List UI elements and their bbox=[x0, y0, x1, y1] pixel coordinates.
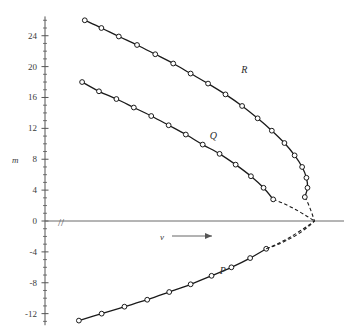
data-point-marker bbox=[82, 18, 87, 23]
series-line bbox=[82, 82, 273, 199]
data-point-marker bbox=[131, 105, 136, 110]
data-point-marker bbox=[167, 290, 172, 295]
data-point-marker bbox=[116, 34, 121, 39]
data-point-marker bbox=[97, 89, 102, 94]
data-point-marker bbox=[209, 273, 214, 278]
data-point-marker bbox=[99, 26, 104, 31]
data-point-marker bbox=[114, 97, 119, 102]
data-point-marker bbox=[240, 104, 245, 109]
series-R bbox=[82, 18, 314, 221]
y-tick-label: 8 bbox=[33, 154, 38, 164]
data-point-marker bbox=[305, 185, 310, 190]
y-tick-label: 4 bbox=[33, 185, 38, 195]
data-point-marker bbox=[183, 132, 188, 137]
data-point-marker bbox=[99, 311, 104, 316]
data-point-marker bbox=[249, 174, 254, 179]
data-point-marker bbox=[80, 80, 85, 85]
data-point-marker bbox=[153, 52, 158, 57]
data-series-group bbox=[76, 18, 314, 323]
data-point-marker bbox=[229, 265, 234, 270]
x-axis-label: ν bbox=[160, 232, 164, 242]
y-tick-label: 20 bbox=[28, 62, 38, 72]
data-point-marker bbox=[217, 151, 222, 156]
data-point-marker bbox=[233, 162, 238, 167]
data-point-marker bbox=[302, 195, 307, 200]
series-line bbox=[85, 20, 308, 197]
chart-canvas: 24201612840-4-8-12 RQP m ν // bbox=[0, 0, 348, 334]
curve-label-Q: Q bbox=[210, 130, 218, 141]
series-P-upper-tail bbox=[266, 221, 314, 249]
data-point-marker bbox=[149, 114, 154, 119]
data-point-marker bbox=[188, 71, 193, 76]
series-dashed-tail bbox=[305, 197, 315, 221]
y-tick-label: 12 bbox=[28, 123, 37, 133]
data-point-marker bbox=[200, 142, 205, 147]
data-point-marker bbox=[269, 128, 274, 133]
y-tick-label: 16 bbox=[28, 92, 38, 102]
data-point-marker bbox=[271, 197, 276, 202]
x-axis bbox=[45, 221, 344, 239]
data-point-marker bbox=[255, 116, 260, 121]
series-Q bbox=[80, 80, 315, 221]
data-point-marker bbox=[145, 297, 150, 302]
curve-label-P: P bbox=[219, 265, 226, 276]
series-dashed-tail bbox=[266, 221, 314, 249]
axis-break-icon: // bbox=[58, 216, 65, 228]
y-tick-label: -4 bbox=[30, 247, 38, 257]
figure-container: 24201612840-4-8-12 RQP m ν // bbox=[0, 0, 348, 334]
data-point-marker bbox=[135, 43, 140, 48]
series-dashed-tail bbox=[266, 221, 314, 249]
data-point-marker bbox=[206, 81, 211, 86]
y-tick-label: -8 bbox=[30, 278, 38, 288]
y-tick-label: 0 bbox=[33, 216, 38, 226]
data-point-marker bbox=[166, 123, 171, 128]
data-point-marker bbox=[188, 282, 193, 287]
y-tick-label: 24 bbox=[28, 31, 38, 41]
x-axis-arrow-icon bbox=[172, 233, 212, 239]
data-point-marker bbox=[304, 175, 309, 180]
y-tick-label: -12 bbox=[25, 309, 37, 319]
data-point-marker bbox=[122, 304, 127, 309]
data-point-marker bbox=[76, 318, 81, 323]
series-line bbox=[79, 249, 266, 321]
data-point-marker bbox=[300, 165, 305, 170]
data-point-marker bbox=[171, 61, 176, 66]
curve-label-R: R bbox=[240, 64, 247, 75]
data-point-marker bbox=[282, 141, 287, 146]
data-point-marker bbox=[292, 153, 297, 158]
y-axis: 24201612840-4-8-12 bbox=[25, 16, 49, 325]
y-axis-label: m bbox=[12, 155, 19, 165]
data-point-marker bbox=[248, 256, 253, 261]
data-point-marker bbox=[261, 185, 266, 190]
data-point-marker bbox=[223, 92, 228, 97]
